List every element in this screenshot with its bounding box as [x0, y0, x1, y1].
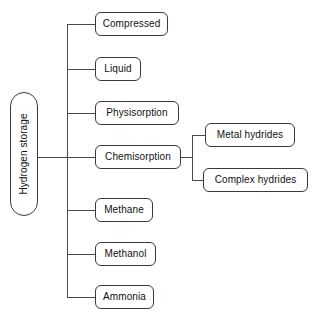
node-physisorption[interactable]: Physisorption	[95, 101, 179, 125]
node-ammonia-label: Ammonia	[101, 292, 148, 302]
node-hydrogen-storage-label: Hydrogen storage	[19, 111, 29, 196]
node-chemisorption-label: Chemisorption	[103, 152, 173, 162]
diagram-canvas: Hydrogen storage Compressed Liquid Physi…	[0, 0, 314, 315]
node-complex-hydrides[interactable]: Complex hydrides	[203, 168, 308, 192]
node-methanol[interactable]: Methanol	[95, 242, 156, 266]
node-compressed-label: Compressed	[101, 19, 163, 29]
node-methane-label: Methane	[102, 205, 146, 215]
node-chemisorption[interactable]: Chemisorption	[95, 145, 181, 169]
node-physisorption-label: Physisorption	[104, 108, 169, 118]
node-complex-hydrides-label: Complex hydrides	[213, 175, 299, 185]
node-ammonia[interactable]: Ammonia	[95, 285, 154, 309]
node-methane[interactable]: Methane	[95, 198, 153, 222]
node-methanol-label: Methanol	[103, 249, 149, 259]
node-liquid-label: Liquid	[102, 64, 133, 74]
node-compressed[interactable]: Compressed	[95, 12, 168, 36]
node-liquid[interactable]: Liquid	[95, 57, 141, 81]
node-metal-hydrides[interactable]: Metal hydrides	[205, 123, 295, 147]
node-metal-hydrides-label: Metal hydrides	[215, 130, 285, 140]
node-hydrogen-storage[interactable]: Hydrogen storage	[10, 92, 38, 216]
